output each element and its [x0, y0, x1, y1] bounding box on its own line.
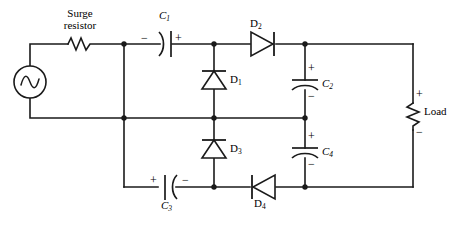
surge-resistor-label-line2: resistor [52, 20, 108, 32]
junction-dot-mid-caps [302, 115, 307, 120]
surge-resistor-symbol [68, 38, 124, 50]
diode-d2-label-sub: 2 [258, 22, 262, 31]
capacitor-c2-plus-sign: + [308, 62, 315, 75]
diode-d3-label: D3 [230, 143, 242, 156]
capacitor-c2-minus-sign: − [308, 90, 315, 103]
capacitor-c3-label: C3 [161, 200, 172, 213]
diode-d4-symbol [252, 175, 275, 199]
capacitor-c2-label: C2 [322, 78, 333, 91]
junction-dot-mid-diodes [211, 115, 216, 120]
diode-d2-label-text: D [250, 17, 258, 29]
junction-dot-d3-bottom [211, 184, 216, 189]
load-label: Load [424, 106, 447, 118]
diode-d2-label: D2 [250, 18, 262, 31]
diode-d3-label-text: D [230, 142, 238, 154]
load-plus-sign: + [416, 88, 423, 101]
schematic-canvas: Surge resistor C1 − + C3 + − C2 + − C4 +… [0, 0, 456, 226]
capacitor-c1-label: C1 [159, 10, 170, 23]
junction-dot-c4-bottom [302, 184, 307, 189]
capacitor-c4-minus-sign: − [308, 158, 315, 171]
capacitor-c1-minus-sign: − [141, 32, 148, 45]
wire-layer-2 [124, 44, 413, 187]
junction-dot-top-left [121, 41, 126, 46]
capacitor-c2-label-sub: 2 [329, 82, 333, 91]
capacitor-c4-plus-sign: + [308, 130, 315, 143]
junction-dot-mid-left [121, 115, 126, 120]
diode-d4-label-text: D [254, 197, 262, 209]
diode-d4-label-sub: 4 [262, 202, 266, 211]
capacitor-c4-label-sub: 4 [329, 150, 333, 159]
diode-d1-label-text: D [230, 73, 238, 85]
diode-d3-label-sub: 3 [238, 147, 242, 156]
diode-d1-symbol [202, 71, 226, 89]
surge-resistor-label-line1: Surge [52, 8, 108, 20]
capacitor-c1-plus-sign: + [175, 32, 182, 45]
diode-d4-label: D4 [254, 198, 266, 211]
diode-d1-label-sub: 1 [238, 78, 242, 87]
circuit-schematic-svg [0, 0, 456, 226]
load-minus-sign: − [416, 126, 423, 139]
capacitor-c3-plus-sign: + [150, 174, 157, 187]
capacitor-c4-label: C4 [322, 146, 333, 159]
capacitor-c3-minus-sign: − [182, 174, 189, 187]
wire-source-to-resistor [30, 44, 68, 66]
ac-source-symbol [14, 66, 46, 98]
junction-dot-d1-top [211, 41, 216, 46]
diode-d2-symbol [251, 32, 274, 56]
capacitor-c1-label-sub: 1 [166, 14, 170, 23]
diode-d1-label: D1 [230, 74, 242, 87]
capacitor-c3-label-sub: 3 [168, 204, 172, 213]
junction-dot-c2-top [302, 41, 307, 46]
wire-source-bottom [30, 98, 124, 118]
diode-d3-symbol [202, 140, 226, 158]
